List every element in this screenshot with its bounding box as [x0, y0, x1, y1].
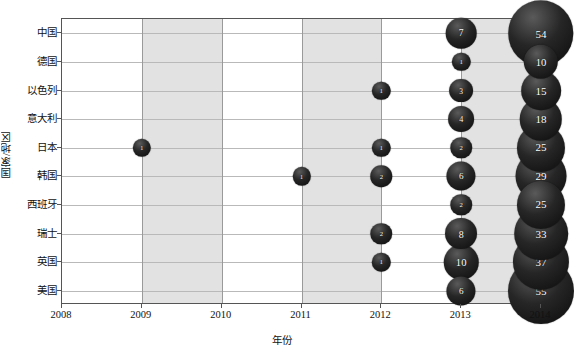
bubble-value-label: 7: [459, 29, 464, 39]
y-axis-tick-label: 以色列: [27, 84, 57, 95]
bubble-value-label: 1: [380, 260, 383, 266]
data-point-bubble: 8: [445, 218, 477, 250]
bubble-value-label: 1: [380, 88, 383, 94]
bubble-value-label: 6: [459, 172, 464, 181]
x-axis-tickmark: [380, 304, 381, 308]
y-axis-tick-label: 韩国: [37, 170, 57, 181]
x-axis-tick-label: 2008: [51, 309, 72, 320]
y-axis-tickmark: [57, 233, 61, 234]
bubble-value-label: 1: [460, 59, 463, 65]
bubble-value-label: 6: [459, 287, 464, 296]
x-axis-tick-label: 2011: [290, 309, 311, 320]
x-axis-tick-label: 2010: [210, 309, 231, 320]
bubble-value-label: 25: [535, 200, 546, 211]
y-axis-tickmark: [57, 32, 61, 33]
bubble-value-label: 18: [535, 114, 546, 125]
bubble-value-label: 2: [459, 202, 462, 209]
bubble-value-label: 2: [380, 173, 383, 180]
y-axis-tickmark: [57, 261, 61, 262]
bubble-value-label: 10: [456, 257, 467, 268]
y-axis-tickmark: [57, 61, 61, 62]
bubble-value-label: 3: [459, 87, 463, 94]
data-point-bubble: 3: [449, 79, 473, 103]
y-axis-tick-label: 中国: [37, 27, 57, 38]
data-point-bubble: 1: [372, 253, 390, 271]
x-axis-title: 年份: [0, 332, 563, 347]
y-axis-tick-labels: 中国德国以色列意大利日本韩国西班牙瑞士英国美国: [14, 18, 60, 304]
vertical-gridline: [142, 19, 143, 303]
x-axis-tick-label: 2013: [450, 309, 471, 320]
x-axis-tickmark: [540, 304, 541, 308]
y-axis-title: 国家/地区: [1, 131, 15, 178]
bubble-value-label: 1: [300, 174, 303, 180]
y-axis-tick-label: 瑞士: [37, 227, 57, 238]
bubble-value-label: 2: [380, 231, 383, 238]
bubble-value-label: 4: [459, 116, 463, 124]
y-axis-tickmark: [57, 290, 61, 291]
x-axis-tickmark: [301, 304, 302, 308]
y-axis-tickmark: [57, 204, 61, 205]
data-point-bubble: 2: [371, 223, 392, 244]
data-point-bubble: 1: [372, 138, 390, 156]
bubble-value-label: 33: [536, 229, 547, 240]
bubble-value-label: 25: [535, 143, 546, 154]
x-axis-tickmark: [221, 304, 222, 308]
bubble-value-label: 2: [459, 145, 462, 152]
data-point-bubble: 4: [448, 106, 474, 132]
bubble-value-label: 10: [536, 57, 547, 68]
data-point-bubble: 2: [371, 166, 392, 187]
vertical-gridline: [222, 19, 223, 303]
plot-area: 55543733292525181510108766432222111111: [61, 18, 540, 304]
x-axis-tickmark: [460, 304, 461, 308]
data-point-bubble: 25: [517, 181, 565, 229]
y-axis-tick-label: 日本: [37, 141, 57, 152]
y-axis-tick-label: 美国: [37, 284, 57, 295]
x-axis-tick-label: 2009: [130, 309, 151, 320]
y-axis-tickmark: [57, 175, 61, 176]
vertical-gridline: [302, 19, 303, 303]
bubble-value-label: 1: [140, 145, 143, 151]
bubble-value-label: 15: [536, 86, 547, 97]
y-axis-tickmark: [57, 147, 61, 148]
x-axis-tickmark: [141, 304, 142, 308]
y-axis-tickmark: [57, 118, 61, 119]
y-axis-tick-label: 意大利: [27, 113, 57, 124]
data-point-bubble: 1: [372, 81, 390, 99]
y-axis-tick-label: 西班牙: [27, 198, 57, 209]
data-point-bubble: 7: [446, 18, 477, 49]
x-axis-tick-label: 2014: [530, 309, 551, 320]
y-axis-tickmark: [57, 90, 61, 91]
bubble-value-label: 8: [459, 229, 464, 239]
y-axis-tick-label: 英国: [37, 256, 57, 267]
y-axis-tick-label: 德国: [37, 55, 57, 66]
bubble-value-label: 1: [380, 145, 383, 151]
x-axis-tick-label: 2012: [370, 309, 391, 320]
bubble-value-label: 54: [535, 28, 546, 39]
x-axis-tickmark: [61, 304, 62, 308]
